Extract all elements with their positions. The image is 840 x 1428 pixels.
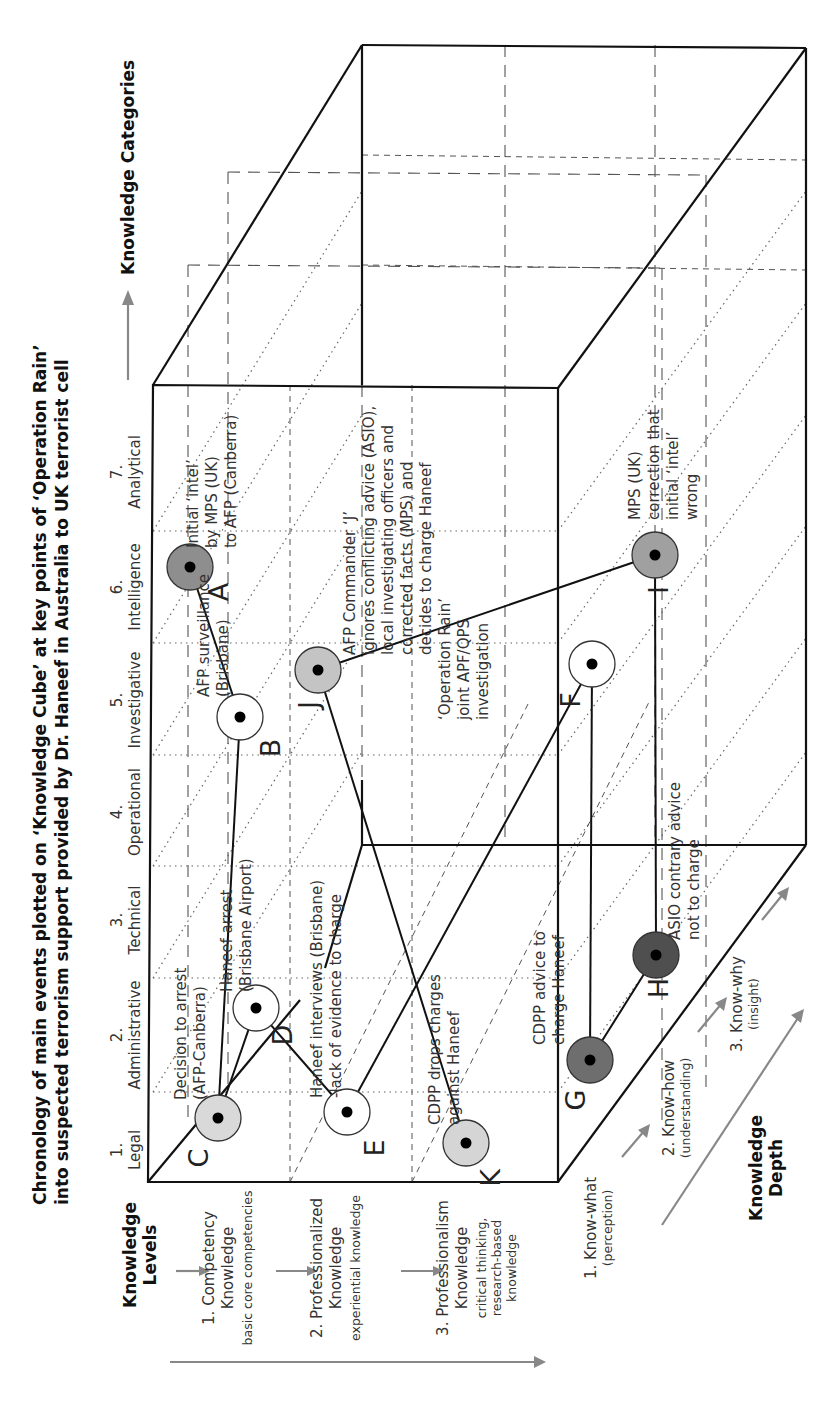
levels-title-line-2: Levels [140,1225,160,1286]
category-label-investigative: Investigative [126,652,144,749]
depth-arrow-2 [698,1003,722,1032]
event-annotation-line: MPS (UK) [626,451,644,520]
event-annotation-line: against Haneef [445,1011,463,1125]
event-node-k: KCDPP drops chargesagainst Haneef [426,974,506,1187]
event-center-dot [185,562,196,573]
event-center-dot [235,712,246,723]
event-center-dot [585,1055,596,1066]
knowledge-cube-diagram: Chronology of main events plotted on ‘Kn… [0,0,840,1428]
event-center-dot [213,1113,224,1124]
event-node-g: GCDPP advice tocharge Haneef [531,931,613,1110]
category-label-intelligence: Intelligence [126,543,144,630]
category-label-technical: Technical [126,886,144,956]
event-letter: F [555,692,586,708]
event-center-dot [587,659,598,670]
event-center-dot [342,1107,353,1118]
levels-axis: Knowledge Levels 1. CompetencyKnowledgeb… [120,1191,546,1368]
link-H-I [655,555,656,955]
title-line-2: into suspected terrorism support provide… [52,359,72,1205]
event-annotation-line: corrected facts (MPS) and [398,462,416,655]
depth-desc-2: (understanding) [678,1058,693,1159]
back-grid-h2 [362,265,806,270]
category-number: 5. [108,693,126,707]
category-diagonal-right [558,191,806,531]
event-annotation-line: Haneef interviews (Brisbane) [308,880,326,1098]
category-number: 2. [108,1028,126,1042]
event-annotation-line: local investigating officers and [379,425,397,655]
level-name-3: 3. Professionalism [434,1200,452,1336]
event-node-h: HASIO contrary advicenot to charge [633,782,703,998]
depth-desc-3: (insight) [746,978,761,1030]
depth-axis: Knowledge Depth 1. Know-what(perception)… [582,887,804,1279]
categories-arrowhead-icon [122,290,134,305]
event-annotation-line: investigation [474,623,492,720]
title-block: Chronology of main events plotted on ‘Kn… [30,344,72,1205]
event-center-dot [650,550,661,561]
event-letter: E [359,1139,390,1156]
event-letter: D [267,1025,298,1046]
mid-depth-line-2 [188,265,660,268]
event-letter: G [560,1090,591,1111]
event-annotation-line: joint APF/QPS [455,619,473,721]
event-letter: K [475,1168,506,1187]
levels-title-line-1: Knowledge [120,1202,140,1308]
depth-arrow-1 [622,1130,645,1157]
category-diagonal-right [558,415,806,755]
event-annotation-line: not to charge [685,839,703,940]
event-letter: B [255,739,286,758]
event-annotation-line: -lack of evidence to charge [327,894,345,1098]
cube-top-right-diagonal [558,48,806,388]
event-annotation-line: (AFP-Canberra) [191,986,209,1100]
event-center-dot [461,1138,472,1149]
event-center-dot [251,1003,262,1014]
depth-title-line-1: Knowledge [746,1115,766,1221]
event-center-dot [313,665,324,676]
category-number: 7. [108,465,126,479]
categories-title: Knowledge Categories [118,60,138,275]
depth-long-arrowhead-icon [791,1009,804,1023]
depth-name-3: 3. Know-why [728,956,746,1052]
level-desc-3: research-based [489,1220,504,1316]
event-node-f: F‘Operation Rain’joint APF/QPSinvestigat… [436,598,615,721]
level-name-2: 2. Professionalized [308,1198,326,1338]
event-letter: C [183,1149,214,1168]
level-name-1: 1. Competency [200,1211,218,1325]
level-name-1: Knowledge [219,1227,237,1309]
event-node-c: CDecision to arrest(AFP-Canberra) [172,968,241,1168]
event-annotation-line: Decision to arrest [172,968,190,1100]
levels-long-arrowhead-icon [534,1356,546,1368]
cube-back-top-edge [362,45,806,48]
level-desc-2: experiential knowledge [348,1195,363,1341]
category-label-legal: Legal [126,1130,144,1170]
mid-depth-line-1 [228,172,706,175]
event-node-j: JAFP Commander ‘J’ignores conflicting ad… [293,406,435,711]
event-annotation-line: decides to charge Haneef [417,462,435,655]
back-grid-h1 [362,155,806,160]
category-label-administrative: Administrative [126,980,144,1089]
category-number: 1. [108,1143,126,1157]
level-desc-3: critical thinking, [474,1218,489,1319]
event-annotation-line: CDPP drops charges [426,974,444,1125]
cube-top-left-diagonal [153,45,362,385]
depth-arrow-3 [762,893,784,920]
event-annotation-line: initial ‘intel’ [664,431,682,520]
event-annotation-line: Haneef arrest [218,890,236,992]
event-center-dot [651,950,662,961]
categories-axis: Knowledge Categories [118,60,138,380]
event-letter: I [643,586,674,594]
event-annotation-line: AFP surveillance [195,574,213,697]
depth-title-line-2: Depth [766,1139,786,1197]
category-label-analytical: Analytical [126,435,144,509]
event-annotation-line: correction that [645,409,663,520]
category-label-operational: Operational [126,768,144,856]
event-node-b: BAFP surveillance(Brisbane) [195,574,286,757]
category-number: 4. [108,805,126,819]
event-annotation-line: (Brisbane) [214,619,232,697]
event-annotation-line: by MPS (UK) [203,456,221,548]
event-letter: J [293,701,324,711]
event-annotation-line: Initial ‘intel’ [184,459,202,548]
category-number: 6. [108,580,126,594]
event-annotation-line: AFP Commander ‘J’ [341,511,359,655]
event-annotation-line: wrong [683,474,701,520]
event-node-e: EHaneef interviews (Brisbane)-lack of ev… [308,880,390,1157]
